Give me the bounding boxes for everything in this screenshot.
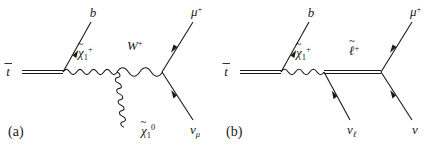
panel-a: t b χ1+ ~ W+ χ10 ~ μ+ bbox=[5, 4, 203, 140]
label-neutralino-a: χ10 ~ bbox=[139, 115, 155, 141]
label-chargino-b: χ1+ ~ bbox=[294, 37, 311, 63]
neutrino-lepton-leg-b bbox=[324, 72, 350, 120]
svg-text:~: ~ bbox=[296, 37, 302, 49]
svg-text:~: ~ bbox=[78, 37, 84, 49]
neutrino-leg-b bbox=[381, 72, 412, 120]
w-boson-propagator-a bbox=[117, 68, 163, 77]
panel-caption-b: (b) bbox=[226, 124, 243, 140]
label-slepton-b: ℓ+ ~ bbox=[349, 34, 359, 58]
diagram-canvas: t b χ1+ ~ W+ χ10 ~ μ+ bbox=[0, 0, 441, 147]
neutralino-propagator-a bbox=[104, 72, 136, 127]
label-neutrino-lepton-b: νℓ bbox=[347, 122, 357, 139]
label-muon-a: μ+ bbox=[190, 4, 203, 19]
label-neutrino-b: ν bbox=[412, 122, 418, 137]
svg-text:~: ~ bbox=[141, 115, 147, 127]
label-chargino-a: χ1+ ~ bbox=[76, 37, 93, 63]
label-neutrino-a: νμ bbox=[190, 122, 200, 139]
label-muon-b: μ+ bbox=[409, 4, 422, 19]
chargino-propagator-a bbox=[63, 69, 117, 74]
muon-leg-a bbox=[162, 22, 193, 72]
label-w-boson-a: W+ bbox=[127, 38, 143, 53]
label-b-quark-b: b bbox=[308, 5, 315, 20]
svg-text:~: ~ bbox=[349, 34, 355, 46]
svg-text:t: t bbox=[6, 64, 10, 79]
label-b-quark-a: b bbox=[90, 5, 97, 20]
svg-text:t: t bbox=[224, 64, 228, 79]
label-tbar-a: t bbox=[5, 64, 13, 80]
tbar-line-b bbox=[240, 71, 281, 74]
chargino-propagator-b bbox=[281, 69, 324, 74]
tbar-line-a bbox=[22, 71, 63, 74]
feynman-figure: t b χ1+ ~ W+ χ10 ~ μ+ bbox=[0, 0, 441, 147]
label-tbar-b: t bbox=[223, 64, 231, 80]
panel-b: t b χ1+ ~ ℓ+ ~ νℓ μ+ bbox=[223, 4, 422, 140]
panel-caption-a: (a) bbox=[8, 124, 24, 140]
neutrino-leg-a bbox=[162, 72, 193, 120]
slepton-propagator-b bbox=[324, 71, 381, 74]
muon-leg-b bbox=[381, 22, 412, 72]
